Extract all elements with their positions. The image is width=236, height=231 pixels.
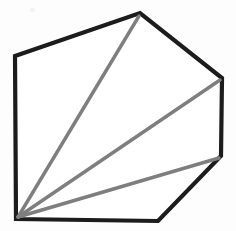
polygon-diagram (0, 0, 236, 231)
figure-canvas (0, 0, 236, 231)
